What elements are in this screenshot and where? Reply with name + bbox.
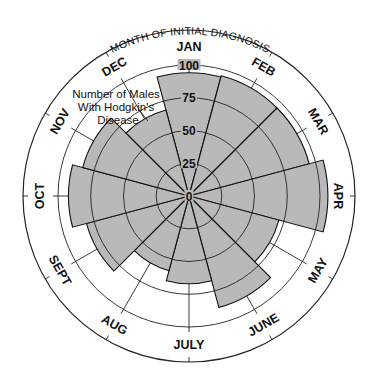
- outer-tick: [328, 113, 332, 116]
- spoke-may: [270, 243, 307, 264]
- outer-tick: [270, 52, 273, 56]
- month-label-feb: FEB: [249, 55, 278, 80]
- outer-tick: [106, 52, 109, 56]
- month-label-nov: NOV: [47, 106, 73, 137]
- radial-label-100: 100: [179, 59, 199, 73]
- radial-label-75: 75: [182, 91, 196, 105]
- outer-tick: [270, 335, 273, 339]
- outer-tick: [45, 113, 49, 116]
- series-label-line-3: Disease: [97, 114, 139, 126]
- month-label-jan: JAN: [176, 40, 201, 54]
- month-label-may: MAY: [305, 255, 331, 286]
- radial-label-25: 25: [182, 157, 196, 171]
- radial-label-50: 50: [182, 124, 196, 138]
- month-label-dec: DEC: [100, 54, 130, 79]
- month-label-oct: OCT: [33, 182, 47, 209]
- outer-tick: [45, 277, 49, 280]
- month-label-mar: MAR: [305, 106, 331, 138]
- polar-area-chart: 0255075100 JANFEBMARAPRMAYJUNEJULYAUGSEP…: [0, 0, 373, 379]
- radial-label-0: 0: [186, 190, 193, 204]
- outer-tick: [106, 335, 109, 339]
- outer-tick: [328, 277, 332, 280]
- month-label-sept: SEPT: [46, 253, 75, 289]
- spoke-nov: [71, 128, 93, 141]
- month-label-apr: APR: [331, 183, 345, 209]
- series-label-line-2: With Hodgkin's: [78, 101, 155, 113]
- series-label-line-1: Number of Males: [72, 88, 160, 100]
- month-label-july: JULY: [174, 338, 205, 352]
- spoke-sept: [71, 249, 97, 264]
- month-label-june: JUNE: [246, 311, 282, 340]
- month-label-aug: AUG: [99, 312, 130, 338]
